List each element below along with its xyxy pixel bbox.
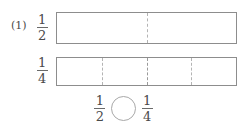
bar-divider: [191, 58, 192, 85]
fraction-one-quarter: 1 4: [36, 56, 48, 85]
fraction-denominator: 4: [141, 109, 153, 123]
comparison-expression: 1 2 1 4: [0, 94, 247, 123]
comparison-left-fraction: 1 2: [94, 94, 106, 123]
fraction-denominator: 2: [94, 109, 106, 123]
bar-divider: [147, 58, 148, 85]
fraction-denominator: 4: [36, 71, 48, 85]
row-label-quarter: 1 4: [36, 56, 48, 85]
comparison-right-fraction: 1 4: [141, 94, 153, 123]
fraction-numerator: 1: [36, 13, 48, 27]
fraction-numerator: 1: [141, 94, 153, 108]
fraction-numerator: 1: [94, 94, 106, 108]
fraction-denominator: 2: [36, 28, 48, 42]
bar-divider: [102, 58, 103, 85]
fraction-one-half: 1 2: [36, 13, 48, 42]
fraction-numerator: 1: [36, 56, 48, 70]
problem-number-label: (1): [11, 19, 27, 32]
bar-divider: [147, 13, 148, 43]
fraction-comparison-worksheet: (1) 1 2 1 4 1 2 1: [0, 0, 247, 138]
bar-model-half: [56, 12, 237, 44]
answer-circle-input[interactable]: [111, 96, 136, 121]
bar-model-quarter: [56, 57, 237, 86]
row-label-half: 1 2: [36, 13, 48, 42]
